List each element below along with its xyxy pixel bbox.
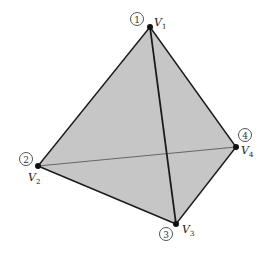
vertex-number-1: 1 <box>131 13 144 26</box>
vertex-label-v3: V3 <box>182 223 194 238</box>
tetrahedron-diagram: 1 V1 2 V2 3 V3 4 V4 <box>0 0 264 255</box>
vertex-number-4: 4 <box>239 129 252 142</box>
tetrahedron-face <box>38 27 236 224</box>
vertex-number-3: 3 <box>160 228 173 241</box>
vertex-dot-v1 <box>147 24 153 30</box>
vertex-dot-v4 <box>233 144 239 150</box>
svg-text:3: 3 <box>163 230 169 240</box>
svg-text:2: 2 <box>23 155 29 165</box>
svg-text:1: 1 <box>134 15 140 25</box>
vertex-number-2: 2 <box>20 153 33 166</box>
vertex-label-v2: V2 <box>28 171 40 186</box>
vertex-label-v1: V1 <box>154 16 166 31</box>
vertex-dot-v3 <box>173 221 179 227</box>
svg-text:4: 4 <box>242 131 248 141</box>
vertex-label-v4: V4 <box>241 144 254 159</box>
vertex-dot-v2 <box>35 163 41 169</box>
